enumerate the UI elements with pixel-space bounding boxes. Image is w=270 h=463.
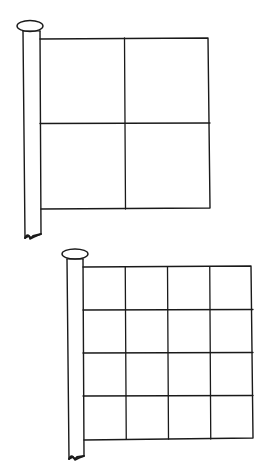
grid-line-horizontal — [83, 396, 253, 397]
grid-line-horizontal — [40, 123, 210, 124]
flag-group-2x2 — [17, 21, 210, 240]
flagpole-finial-icon — [62, 249, 88, 259]
flagpole-finial-icon — [17, 21, 43, 32]
flagpole — [17, 21, 43, 240]
flagpole — [62, 249, 88, 460]
flag-cloth — [83, 266, 253, 440]
flags-diagram — [0, 0, 270, 463]
flagpole-shaft — [23, 31, 41, 239]
grid-line-horizontal — [83, 310, 253, 311]
flag-group-4x4 — [62, 249, 253, 460]
flagpole-shaft — [67, 259, 84, 460]
grid-line-horizontal — [83, 353, 253, 354]
flag-cloth — [40, 38, 210, 209]
